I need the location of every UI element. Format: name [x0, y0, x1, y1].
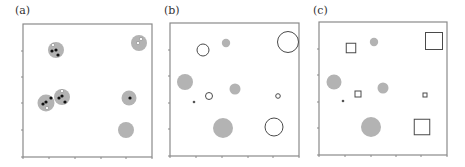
- panel-c: (c): [313, 4, 447, 157]
- black-point: [44, 100, 47, 103]
- panel-a-label: (a): [15, 4, 30, 17]
- white-point: [136, 41, 139, 44]
- black-point: [128, 96, 131, 99]
- figure: (a) (b) (c): [0, 0, 465, 167]
- black-point: [56, 53, 59, 56]
- filled-circle-marker: [230, 84, 241, 95]
- panel-b: (b): [164, 4, 299, 158]
- panel-b-plot: [168, 23, 299, 158]
- white-point: [139, 37, 142, 40]
- panel-c-label: (c): [313, 4, 328, 17]
- filled-circle-marker: [361, 117, 381, 137]
- black-point: [63, 100, 66, 103]
- filled-circle-marker: [378, 83, 389, 94]
- black-point: [50, 49, 53, 52]
- black-point: [41, 102, 44, 105]
- white-point: [51, 43, 54, 46]
- black-point: [60, 94, 63, 97]
- black-point: [49, 96, 52, 99]
- panel-c-plot: [317, 22, 447, 157]
- cluster-circle: [118, 122, 134, 138]
- filled-circle-marker: [370, 38, 378, 46]
- panel-a-plot: [21, 24, 152, 159]
- filled-circle-marker: [327, 75, 342, 90]
- black-point: [54, 48, 57, 51]
- dot-marker: [342, 100, 345, 103]
- dot-marker: [193, 101, 196, 104]
- filled-circle-marker: [222, 39, 230, 47]
- filled-circle-marker: [177, 74, 193, 90]
- white-point: [60, 89, 63, 92]
- panel-b-label: (b): [164, 4, 180, 17]
- filled-circle-marker: [213, 118, 233, 138]
- panel-a: (a): [15, 4, 152, 159]
- white-point: [45, 106, 48, 109]
- black-point: [57, 96, 60, 99]
